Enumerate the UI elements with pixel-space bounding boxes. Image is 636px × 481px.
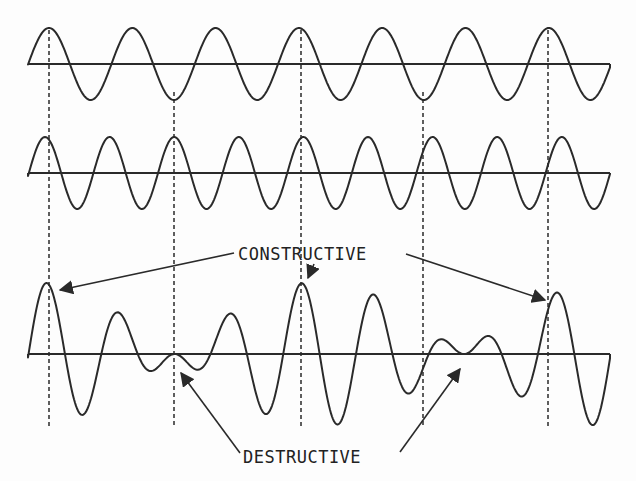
- destructive-label: DESTRUCTIVE: [243, 448, 361, 466]
- constructive-arrow-right: [406, 254, 545, 300]
- destructive-arrow-left: [181, 373, 240, 453]
- destructive-arrow-right: [400, 369, 460, 452]
- constructive-label: CONSTRUCTIVE: [238, 245, 367, 263]
- reference-dashed-lines: [49, 30, 548, 428]
- interference-diagram: CONSTRUCTIVE DESTRUCTIVE: [0, 0, 636, 481]
- constructive-arrow-left: [60, 253, 234, 290]
- wave-plot: [0, 0, 636, 481]
- constructive-arrow-middle: [308, 264, 314, 278]
